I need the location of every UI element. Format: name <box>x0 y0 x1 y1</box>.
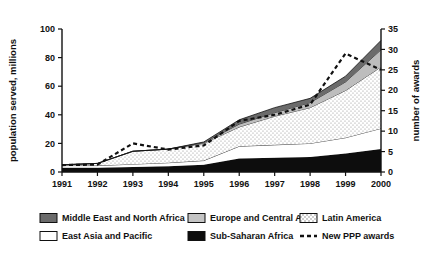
y2-tick-label: 25 <box>388 65 398 75</box>
legend-label: New PPP awards <box>322 231 394 241</box>
chart-container: 0204060801000510152025303519911992199319… <box>0 0 433 263</box>
x-tick-label: 1996 <box>229 179 249 189</box>
legend-label: Middle East and North Africa <box>62 213 186 223</box>
legend-item: New PPP awards <box>300 231 394 241</box>
plot-area <box>62 40 381 172</box>
x-tick-label: 1991 <box>52 179 72 189</box>
dark-gray-swatch-icon <box>40 214 57 223</box>
y-axis-title: population served, millions <box>7 39 18 162</box>
x-tick-label: 1998 <box>300 179 320 189</box>
y2-tick-label: 10 <box>388 126 398 136</box>
stipple-swatch-icon <box>300 214 317 223</box>
x-tick-label: 1993 <box>123 179 143 189</box>
chart-legend: Middle East and North AfricaEurope and C… <box>40 213 394 241</box>
x-tick-label: 1999 <box>336 179 356 189</box>
x-tick-label: 1997 <box>265 179 285 189</box>
y2-tick-label: 5 <box>388 147 393 157</box>
legend-item: Europe and Central Asia <box>188 213 315 223</box>
x-tick-label: 1992 <box>87 179 107 189</box>
y-tick-label: 60 <box>45 81 55 91</box>
stacked-area-chart: 0204060801000510152025303519911992199319… <box>0 0 433 263</box>
y2-tick-label: 20 <box>388 85 398 95</box>
black-swatch-icon <box>188 232 205 241</box>
light-gray-swatch-icon <box>188 214 205 223</box>
legend-label: Europe and Central Asia <box>210 213 315 223</box>
legend-item: East Asia and Pacific <box>40 231 152 241</box>
legend-label: East Asia and Pacific <box>62 231 152 241</box>
legend-item: Latin America <box>300 213 382 223</box>
y-tick-label: 0 <box>50 167 55 177</box>
legend-item: Middle East and North Africa <box>40 213 186 223</box>
x-tick-label: 2000 <box>371 179 391 189</box>
y-tick-label: 20 <box>45 139 55 149</box>
y-tick-label: 80 <box>45 53 55 63</box>
white-swatch-icon <box>40 232 57 241</box>
x-tick-label: 1995 <box>194 179 214 189</box>
legend-label: Sub-Saharan Africa <box>210 231 294 241</box>
y2-tick-label: 15 <box>388 106 398 116</box>
y2-tick-label: 35 <box>388 24 398 34</box>
legend-label: Latin America <box>322 213 382 223</box>
x-tick-label: 1994 <box>158 179 178 189</box>
y2-tick-label: 30 <box>388 45 398 55</box>
y-tick-label: 100 <box>40 24 55 34</box>
legend-item: Sub-Saharan Africa <box>188 231 294 241</box>
y2-axis-title: number of awards <box>410 60 421 142</box>
y-tick-label: 40 <box>45 110 55 120</box>
y2-tick-label: 0 <box>388 167 393 177</box>
